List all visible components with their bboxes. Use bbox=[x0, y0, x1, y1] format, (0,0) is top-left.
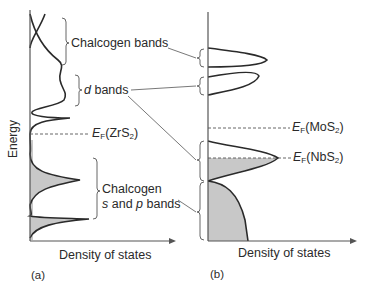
panel-a-brace-sp bbox=[93, 158, 100, 219]
ef-compound: (MoS bbox=[305, 120, 335, 134]
panel-a-brace-d bbox=[75, 75, 82, 106]
panel-b-brace-sp bbox=[197, 182, 204, 240]
panel-b-x-axis-label: Density of states bbox=[238, 247, 330, 260]
panel-b-brace-chalcogen-lower bbox=[197, 77, 204, 95]
ef-compound: (NbS bbox=[306, 150, 334, 164]
panel-a-arrowhead bbox=[169, 238, 176, 244]
panel-b-brace-d bbox=[197, 141, 204, 181]
connector-d-to-chalcogen-lower bbox=[131, 86, 196, 90]
bands-text: bands bbox=[143, 197, 181, 211]
panel-b-chalcogen-band-lower bbox=[208, 72, 259, 95]
and-text: and bbox=[108, 197, 136, 211]
p-italic: p bbox=[136, 197, 143, 211]
d-italic: d bbox=[84, 83, 91, 97]
chalcogen-sp-label-line1: Chalcogen bbox=[102, 183, 162, 196]
ef-close: ) bbox=[134, 126, 138, 140]
connector-chalcogen bbox=[168, 48, 196, 58]
chalcogen-sp-label-line2: s and p bands bbox=[102, 198, 181, 211]
ef-close: ) bbox=[339, 150, 343, 164]
panel-a-tag: (a) bbox=[31, 270, 45, 282]
panel-b-tag: (b) bbox=[210, 269, 224, 281]
ef-zrs2-label: EF(ZrS2) bbox=[92, 127, 138, 141]
ef-nbs2-label: EF(NbS2) bbox=[293, 151, 343, 165]
chalcogen-bands-label: Chalcogen bands bbox=[71, 37, 168, 50]
connector-sp bbox=[178, 200, 196, 212]
ef-compound: (ZrS bbox=[105, 126, 129, 140]
ef-mos2-label: EF(MoS2) bbox=[292, 121, 344, 135]
d-bands-text: bands bbox=[91, 83, 129, 97]
ef-close: ) bbox=[340, 120, 344, 134]
energy-axis-label: Energy bbox=[6, 120, 20, 158]
connector-d-to-d bbox=[128, 96, 196, 160]
panel-b-arrowhead bbox=[350, 238, 357, 244]
panel-a-x-axis-label: Density of states bbox=[59, 249, 151, 262]
panel-b-chalcogen-band-upper bbox=[208, 48, 267, 67]
d-bands-label: d bands bbox=[84, 84, 128, 97]
panel-a-brace-chalcogen bbox=[62, 18, 69, 65]
panel-b-brace-chalcogen-upper bbox=[197, 49, 204, 67]
